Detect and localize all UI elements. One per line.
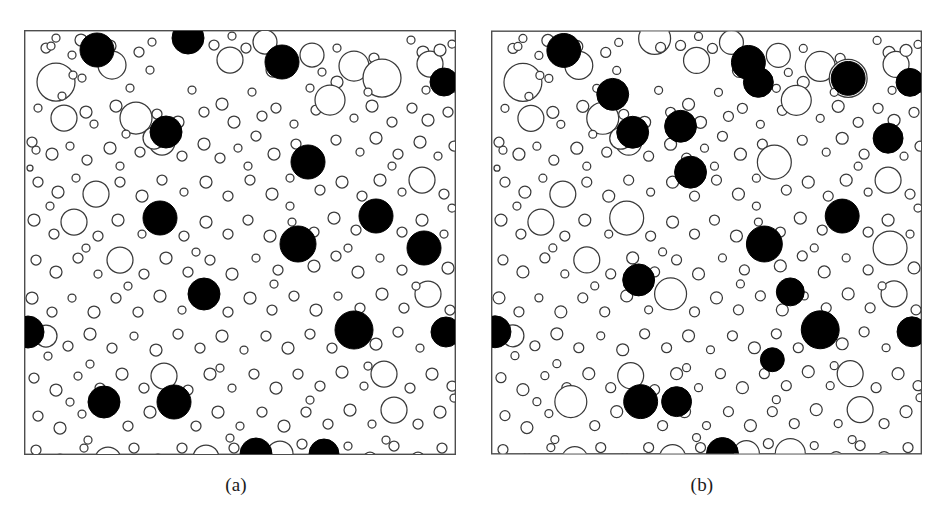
particle-open bbox=[215, 153, 225, 163]
panel-a-wrap bbox=[24, 30, 456, 455]
particle-open bbox=[439, 189, 449, 199]
particle-open bbox=[494, 165, 500, 171]
particle-open bbox=[767, 407, 777, 417]
particle-open bbox=[331, 251, 341, 261]
particle-open bbox=[892, 368, 904, 380]
particle-open bbox=[789, 419, 799, 429]
panel-b-wrap bbox=[491, 30, 922, 455]
particle-open bbox=[905, 189, 915, 199]
particle-open bbox=[94, 270, 102, 278]
particle-open bbox=[495, 214, 507, 226]
particle-open bbox=[516, 229, 526, 239]
particle-open bbox=[356, 148, 364, 156]
particle-open bbox=[551, 328, 563, 340]
particle-open bbox=[696, 443, 706, 453]
particle-open bbox=[74, 372, 82, 380]
particle-open bbox=[199, 107, 209, 117]
particle-open bbox=[180, 188, 188, 196]
particle-open bbox=[577, 100, 589, 112]
particle-open bbox=[344, 404, 356, 416]
particle-filled bbox=[547, 33, 581, 67]
particle-open bbox=[711, 175, 721, 185]
particle-open bbox=[582, 177, 592, 187]
particle-open bbox=[737, 103, 747, 113]
particle-open bbox=[496, 373, 506, 383]
particle-filled bbox=[88, 386, 120, 418]
particle-open bbox=[270, 280, 278, 288]
particle-open bbox=[95, 447, 121, 455]
particle-open bbox=[422, 86, 430, 94]
particle-open bbox=[136, 190, 148, 202]
particle-open bbox=[690, 307, 700, 317]
particle-filled bbox=[831, 61, 865, 95]
particle-open bbox=[640, 329, 650, 339]
particle-open bbox=[130, 332, 138, 340]
particle-open bbox=[52, 34, 60, 42]
particle-open bbox=[228, 32, 236, 40]
particle-open bbox=[443, 107, 453, 117]
particle-open bbox=[517, 384, 529, 396]
particle-open bbox=[416, 214, 428, 226]
particle-open bbox=[33, 177, 43, 187]
particle-open bbox=[240, 346, 248, 354]
particle-open bbox=[530, 341, 540, 351]
particle-open bbox=[574, 247, 600, 273]
particle-open bbox=[148, 38, 156, 46]
particle-open bbox=[525, 92, 533, 100]
particle-open bbox=[589, 130, 597, 138]
particle-open bbox=[810, 404, 822, 416]
particle-open bbox=[52, 186, 64, 198]
particle-open bbox=[865, 303, 875, 313]
particle-open bbox=[116, 162, 124, 170]
particle-open bbox=[644, 443, 654, 453]
particle-open bbox=[676, 40, 686, 50]
particle-open bbox=[915, 141, 922, 151]
particle-open bbox=[129, 443, 139, 453]
particle-open bbox=[426, 368, 438, 380]
particle-open bbox=[122, 130, 130, 138]
particle-open bbox=[46, 148, 58, 160]
particle-open bbox=[351, 225, 361, 235]
particle-open bbox=[774, 260, 786, 272]
particle-filled bbox=[801, 311, 839, 349]
particle-open bbox=[498, 255, 508, 265]
particle-open bbox=[267, 305, 277, 315]
particle-open bbox=[198, 138, 210, 150]
particle-open bbox=[50, 266, 62, 278]
particle-open bbox=[659, 248, 667, 256]
particle-open bbox=[882, 214, 894, 226]
particle-open bbox=[216, 98, 228, 110]
particle-filled bbox=[623, 264, 655, 296]
particle-open bbox=[639, 30, 671, 54]
particle-open bbox=[306, 84, 314, 92]
particle-open bbox=[739, 265, 749, 275]
particle-open bbox=[414, 136, 426, 148]
particle-open bbox=[624, 175, 634, 185]
particle-open bbox=[878, 282, 886, 290]
particle-open bbox=[28, 214, 40, 226]
particle-open bbox=[842, 254, 850, 262]
particle-open bbox=[397, 265, 407, 275]
particle-open bbox=[126, 84, 134, 92]
particle-open bbox=[107, 343, 117, 353]
particle-open bbox=[557, 120, 565, 128]
particle-open bbox=[200, 216, 212, 228]
panel-b-caption: (b) bbox=[642, 474, 762, 496]
particle-open bbox=[494, 137, 504, 147]
particle-open bbox=[49, 229, 59, 239]
particle-open bbox=[541, 372, 549, 380]
particle-open bbox=[58, 92, 66, 100]
particle-open bbox=[51, 105, 77, 131]
particle-open bbox=[412, 282, 420, 290]
particle-open bbox=[730, 230, 742, 242]
particle-open bbox=[442, 262, 454, 274]
particle-open bbox=[732, 188, 744, 200]
particle-open bbox=[606, 383, 616, 393]
particle-open bbox=[82, 244, 90, 252]
particle-open bbox=[610, 201, 644, 235]
particle-open bbox=[69, 71, 77, 79]
particle-open bbox=[308, 260, 320, 272]
particle-open bbox=[370, 338, 382, 350]
particle-open bbox=[305, 329, 315, 339]
particle-open bbox=[672, 255, 682, 265]
